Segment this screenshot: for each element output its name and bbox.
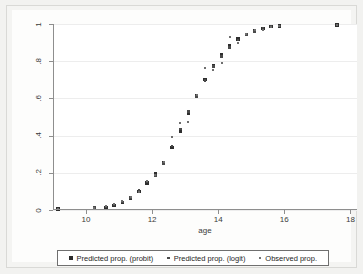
- y-tick-label: .6: [34, 90, 43, 106]
- data-point-observed: [229, 36, 231, 38]
- legend-item-probit: Predicted prop. (probit): [69, 254, 153, 263]
- data-point-observed: [221, 62, 223, 64]
- data-point-logit: [171, 145, 174, 148]
- y-tick-label: .4: [34, 128, 43, 144]
- y-axis-line: [53, 24, 54, 210]
- data-point-observed: [336, 24, 338, 26]
- data-point-logit: [204, 79, 207, 82]
- gridline: [53, 98, 357, 99]
- x-tick-label: 12: [141, 215, 163, 224]
- data-point-logit: [220, 55, 223, 58]
- data-point-logit: [228, 46, 231, 49]
- data-point-observed: [154, 174, 156, 176]
- data-point-observed: [278, 25, 280, 27]
- y-tick-mark: [49, 136, 53, 137]
- y-tick-mark: [49, 210, 53, 211]
- data-point-observed: [187, 121, 189, 123]
- data-point-logit: [179, 128, 182, 131]
- data-point-observed: [270, 26, 272, 28]
- chart-legend: Predicted prop. (probit) Predicted prop.…: [57, 250, 329, 266]
- x-axis-line: [53, 209, 357, 210]
- data-point-observed: [113, 203, 115, 205]
- data-point-observed: [163, 161, 165, 163]
- y-tick-label: .2: [34, 165, 43, 181]
- y-tick-mark: [49, 24, 53, 25]
- x-tick-label: 10: [75, 215, 97, 224]
- x-tick-mark: [86, 210, 87, 214]
- graph-canvas: 0.2.4.6.81 1012141618 age Predicted prop…: [12, 10, 351, 262]
- data-point-observed: [254, 29, 256, 31]
- data-point-observed: [105, 205, 107, 207]
- gridline: [53, 136, 357, 137]
- data-point-observed: [212, 69, 214, 71]
- data-point-observed: [121, 200, 123, 202]
- legend-item-observed: Observed prop.: [259, 254, 317, 263]
- legend-marker-observed-icon: [259, 257, 261, 259]
- data-point-observed: [130, 196, 132, 198]
- data-point-observed: [237, 42, 239, 44]
- chart-screenshot: 0.2.4.6.81 1012141618 age Predicted prop…: [0, 0, 363, 274]
- gridline: [53, 210, 357, 211]
- gridline: [53, 61, 357, 62]
- gridline: [53, 173, 357, 174]
- y-tick-mark: [49, 61, 53, 62]
- x-tick-label: 16: [273, 215, 295, 224]
- data-point-observed: [262, 29, 264, 31]
- x-tick-mark: [152, 210, 153, 214]
- x-tick-label: 18: [339, 215, 361, 224]
- y-tick-label: 1: [34, 16, 43, 32]
- plot-region: [53, 24, 357, 210]
- legend-label-observed: Observed prop.: [265, 254, 317, 263]
- legend-label-probit: Predicted prop. (probit): [77, 254, 154, 263]
- legend-label-logit: Predicted prop. (logit): [174, 254, 246, 263]
- data-point-observed: [146, 180, 148, 182]
- legend-marker-logit-icon: [167, 257, 170, 260]
- x-tick-mark: [284, 210, 285, 214]
- legend-marker-probit-icon: [69, 256, 73, 260]
- data-point-observed: [196, 94, 198, 96]
- x-tick-mark: [218, 210, 219, 214]
- y-tick-mark: [49, 98, 53, 99]
- data-point-observed: [138, 191, 140, 193]
- x-tick-mark: [350, 210, 351, 214]
- x-tick-label: 14: [207, 215, 229, 224]
- y-tick-mark: [49, 173, 53, 174]
- y-tick-label: .8: [34, 53, 43, 69]
- data-point-observed: [179, 122, 181, 124]
- data-point-observed: [245, 33, 247, 35]
- data-point-observed: [171, 136, 173, 138]
- data-point-logit: [187, 110, 190, 113]
- y-tick-label: 0: [34, 202, 43, 218]
- data-point-observed: [204, 67, 206, 69]
- gridline: [53, 24, 357, 25]
- x-axis-title: age: [53, 226, 357, 235]
- legend-item-logit: Predicted prop. (logit): [167, 254, 245, 263]
